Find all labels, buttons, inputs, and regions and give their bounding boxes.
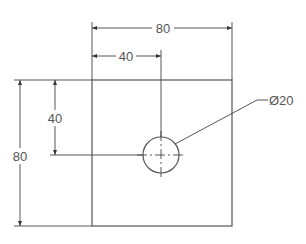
- dimension-label-80-height: 80: [13, 149, 27, 164]
- plate-outline: [92, 80, 232, 226]
- dimension-label-40-x: 40: [119, 49, 133, 64]
- dimension-label-diameter: Ø20: [269, 93, 294, 108]
- dimension-overall-height: 80: [8, 80, 32, 226]
- dimension-hole-x-offset: 40: [92, 48, 161, 64]
- technical-drawing: 80 40 80 40 Ø20: [0, 0, 306, 244]
- leader-hole-diameter: Ø20: [175, 93, 294, 144]
- dimension-hole-y-offset: 40: [44, 80, 66, 155]
- dimension-label-40-y: 40: [48, 111, 62, 126]
- dimension-label-80-width: 80: [156, 21, 170, 36]
- dimension-overall-width: 80: [92, 20, 232, 36]
